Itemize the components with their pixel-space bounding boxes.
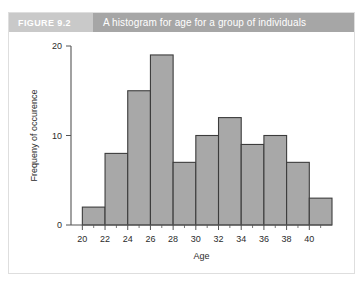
figure-caption: A histogram for age for a group of indiv…	[93, 13, 354, 32]
figure-header: FIGURE 9.2 A histogram for age for a gro…	[9, 13, 354, 32]
y-axis-tick-label: 0	[57, 220, 62, 230]
x-axis-tick-label: 34	[236, 234, 246, 244]
x-axis-tick-label: 40	[304, 234, 314, 244]
x-axis-tick-label: 24	[123, 234, 133, 244]
x-axis-tick-label: 20	[77, 234, 87, 244]
x-axis-tick-label: 26	[145, 234, 155, 244]
y-axis-title: Frequeny of occurence	[29, 89, 39, 181]
histogram-bar	[287, 162, 310, 225]
histogram-bar	[105, 153, 128, 225]
histogram-bar	[82, 207, 105, 225]
histogram-bar	[196, 136, 219, 226]
histogram-bar	[219, 118, 242, 225]
histogram-bar	[264, 136, 287, 226]
x-axis-tick-label: 36	[259, 234, 269, 244]
histogram-chart: 010202022242628303234363840AgeFrequeny o…	[9, 32, 354, 273]
x-axis-tick-label: 32	[214, 234, 224, 244]
x-axis-title: Age	[193, 251, 209, 261]
figure-card: FIGURE 9.2 A histogram for age for a gro…	[8, 12, 355, 274]
x-axis-tick-label: 38	[282, 234, 292, 244]
histogram-bar	[241, 144, 264, 225]
histogram-bar	[309, 198, 332, 225]
y-axis-tick-label: 20	[52, 41, 62, 51]
figure-number-label: FIGURE 9.2	[9, 13, 93, 32]
plot-area: 010202022242628303234363840AgeFrequeny o…	[9, 32, 354, 273]
x-axis-tick-label: 22	[100, 234, 110, 244]
x-axis-tick-label: 28	[168, 234, 178, 244]
histogram-bar	[150, 55, 173, 225]
y-axis-tick-label: 10	[52, 131, 62, 141]
histogram-bar	[128, 91, 151, 225]
x-axis-tick-label: 30	[191, 234, 201, 244]
histogram-bar	[173, 162, 196, 225]
